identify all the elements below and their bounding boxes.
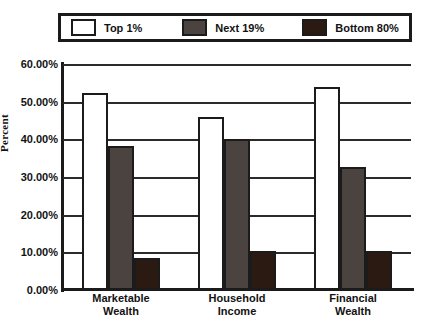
legend-label-bottom-80: Bottom 80% (335, 22, 399, 34)
y-tick-label: 0.00% (4, 284, 58, 296)
y-tick-label: 30.00% (4, 171, 58, 183)
chart-figure: Comparison Top 1% Next 19% Bottom 80% Pe… (0, 0, 434, 331)
gridline (63, 102, 411, 104)
bar (108, 146, 134, 290)
legend-swatch-top-1 (71, 19, 96, 36)
legend-swatch-bottom-80 (302, 19, 327, 36)
bar (224, 139, 250, 290)
bar (340, 167, 366, 290)
bar (314, 87, 340, 290)
x-tick-label-line: Marketable (63, 292, 179, 305)
x-tick-label: HouseholdIncome (179, 292, 295, 318)
bar (366, 251, 392, 290)
y-axis-ticks: 0.00%10.00%20.00%30.00%40.00%50.00%60.00… (0, 64, 58, 290)
cropped-title: Comparison (0, 0, 434, 7)
chart-legend: Top 1% Next 19% Bottom 80% (58, 13, 412, 42)
x-tick-label-line: Wealth (63, 305, 179, 318)
x-tick-label-line: Household (179, 292, 295, 305)
bar (134, 258, 160, 290)
x-tick-label-line: Income (179, 305, 295, 318)
x-tick-label-line: Financial (295, 292, 411, 305)
legend-entry-bottom-80: Bottom 80% (302, 16, 399, 39)
legend-swatch-next-19 (182, 19, 207, 36)
y-tick-label: 40.00% (4, 133, 58, 145)
legend-entry-next-19: Next 19% (182, 16, 264, 39)
legend-label-top-1: Top 1% (104, 22, 142, 34)
bar (198, 117, 224, 290)
bar (82, 93, 108, 290)
y-tick-label: 60.00% (4, 58, 58, 70)
y-tick-label: 20.00% (4, 209, 58, 221)
legend-label-next-19: Next 19% (215, 22, 264, 34)
y-tick-label: 50.00% (4, 96, 58, 108)
x-tick-label: MarketableWealth (63, 292, 179, 318)
x-axis-category-labels: MarketableWealthHouseholdIncomeFinancial… (63, 292, 411, 331)
x-tick-label: FinancialWealth (295, 292, 411, 318)
gridline (63, 64, 411, 66)
y-tick-label: 10.00% (4, 246, 58, 258)
x-tick-label-line: Wealth (295, 305, 411, 318)
plot-area (63, 64, 411, 290)
bar (250, 251, 276, 290)
legend-entry-top-1: Top 1% (71, 16, 142, 39)
